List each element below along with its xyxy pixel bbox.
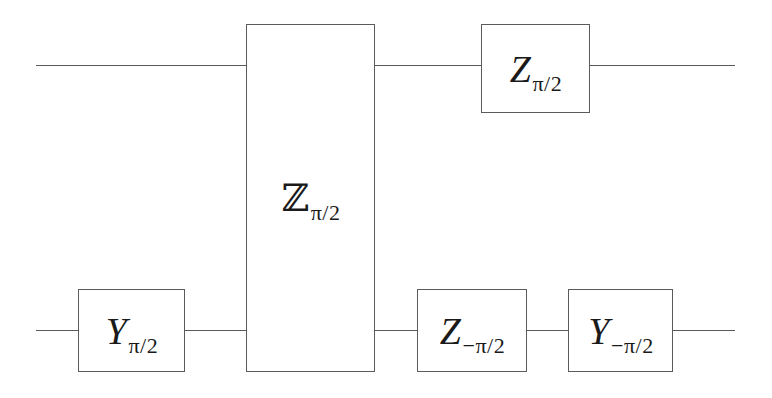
- gate-y-first-subscript: π/2: [128, 333, 158, 358]
- gate-y-pi-over-2-bottom[interactable]: Yπ/2: [78, 289, 185, 372]
- gate-z-top-symbol: Z: [510, 48, 532, 90]
- gate-y-last-symbol: Y: [588, 310, 610, 352]
- gate-z-top-label: Zπ/2: [510, 50, 561, 88]
- gate-y-first-label: Yπ/2: [106, 312, 157, 350]
- gate-z-bottom-subscript: −π/2: [463, 333, 506, 358]
- gate-z-bottom-symbol: Z: [440, 310, 462, 352]
- gate-y-last-label: Y−π/2: [588, 312, 652, 350]
- gate-y-minus-pi-over-2-bottom[interactable]: Y−π/2: [568, 289, 673, 372]
- quantum-circuit-diagram: ℤπ/2 Zπ/2 Yπ/2 Z−π/2 Y−π/2: [0, 0, 772, 398]
- gate-z-bottom-label: Z−π/2: [440, 312, 504, 350]
- top-qubit-wire: [36, 65, 735, 66]
- gate-z-minus-pi-over-2-bottom[interactable]: Z−π/2: [417, 289, 527, 372]
- gate-zz-two-qubit[interactable]: ℤπ/2: [246, 24, 375, 372]
- gate-zz-label: ℤπ/2: [282, 179, 340, 217]
- gate-z-top-subscript: π/2: [532, 71, 562, 96]
- gate-z-pi-over-2-top[interactable]: Zπ/2: [481, 24, 590, 113]
- gate-zz-symbol: ℤ: [282, 177, 310, 219]
- gate-y-first-symbol: Y: [106, 310, 128, 352]
- gate-y-last-subscript: −π/2: [611, 333, 654, 358]
- gate-zz-subscript: π/2: [311, 200, 341, 225]
